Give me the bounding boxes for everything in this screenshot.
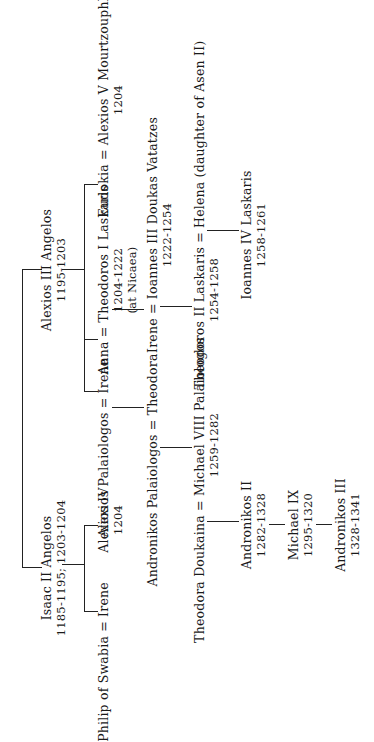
person-theodoros-ii-helena: Theodoros II Laskaris = Helena (daughter… — [193, 41, 221, 390]
connector-siblings-gen1 — [22, 270, 23, 568]
connector-to-theodoros-ii — [160, 306, 192, 307]
person-irene-ioannes-iii: Irene = Ioannes III Doukas Vatatzes 1222… — [146, 117, 174, 353]
person-andronikos-iii: Andronikos III 1328-1341 — [334, 478, 362, 572]
person-alexios-iii: Alexios III Angelos 1195-1203 — [40, 209, 68, 331]
reign-dates: 1258-1261 — [254, 170, 268, 299]
person-name: Ioannes IV Laskaris — [240, 170, 254, 299]
connector-to-michael-ix — [269, 524, 285, 525]
person-name: Irene = Ioannes III Doukas Vatatzes — [146, 117, 160, 353]
reign-dates: 1282-1328 — [254, 481, 268, 570]
note: (at Nicaea) — [125, 185, 139, 375]
connector-to-andronikos-iii — [316, 524, 332, 525]
person-name: Theodoros II Laskaris = Helena (daughter… — [193, 41, 207, 390]
person-philip-irene: Philip of Swabia = Irene — [97, 582, 111, 742]
connector-to-andronikos-pal — [112, 407, 144, 408]
reign-dates: 1254-1258 — [207, 41, 221, 390]
connector-to-michael-viii — [160, 447, 192, 448]
connector-to-irene-vatatzes — [112, 309, 144, 310]
person-name: Eudokia = Alexios V Mourtzouphlos — [97, 0, 111, 217]
person-andronikos-palaiologos-theodora: Andronikos Palaiologos = Theodora — [146, 353, 160, 586]
person-name: Andronikos Palaiologos = Theodora — [146, 353, 160, 586]
person-eudokia-alexios-v: Eudokia = Alexios V Mourtzouphlos 1204 — [97, 0, 125, 217]
person-name: Alexios Palaiologos = Irene — [97, 359, 111, 538]
reign-dates: 1222-1254 — [160, 117, 174, 353]
person-andronikos-ii: Andronikos II 1282-1328 — [240, 481, 268, 570]
person-alexios-palaiologos-irene: Alexios Palaiologos = Irene — [97, 359, 111, 538]
person-name: Andronikos III — [334, 478, 348, 572]
connector-alexios3-children — [84, 185, 85, 392]
person-name: Alexios III Angelos — [40, 209, 54, 331]
connector-isaac-children-stem — [62, 564, 84, 565]
reign-dates: 1195-1203 — [54, 209, 68, 331]
person-name: Andronikos II — [240, 481, 254, 570]
reign-dates: 1204 — [111, 487, 125, 552]
connector-to-ioannes-iv — [207, 230, 239, 231]
reign-dates: 1204 — [111, 0, 125, 217]
person-michael-ix: Michael IX 1295-1320 — [287, 490, 315, 561]
reign-dates: 1185-1195; 1203-1204 — [54, 500, 68, 636]
connector-isaac-children — [84, 526, 85, 612]
person-name: Michael IX — [287, 490, 301, 561]
connector-to-andronikos-ii — [207, 521, 239, 522]
person-isaac-ii: Isaac II Angelos 1185-1195; 1203-1204 — [40, 500, 68, 636]
connector-alexios3-children-stem — [62, 269, 84, 270]
person-name: Philip of Swabia = Irene — [97, 582, 111, 742]
reign-dates: 1328-1341 — [348, 478, 362, 572]
reign-dates: 1295-1320 — [301, 490, 315, 561]
person-ioannes-iv: Ioannes IV Laskaris 1258-1261 — [240, 170, 268, 299]
person-name: Isaac II Angelos — [40, 500, 54, 636]
